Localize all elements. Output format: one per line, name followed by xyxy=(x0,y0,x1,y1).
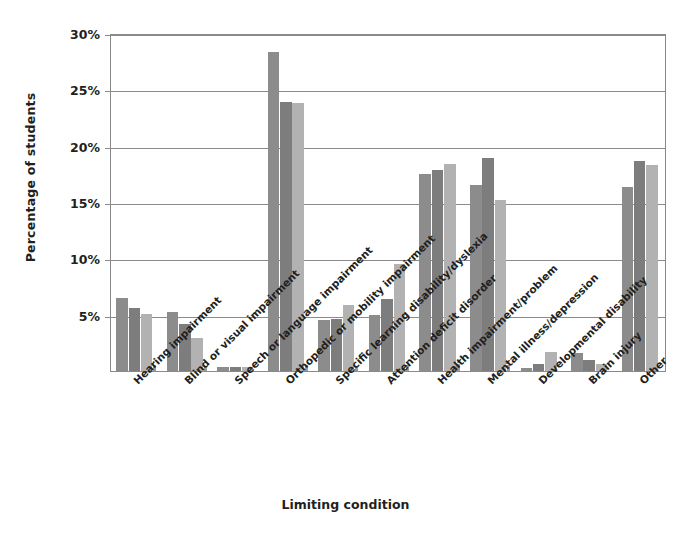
bar xyxy=(521,368,533,371)
y-tick-mark xyxy=(105,148,111,149)
y-axis-title: Percentage of students xyxy=(23,78,38,278)
y-tick-mark xyxy=(105,260,111,261)
y-tick-mark xyxy=(105,317,111,318)
bar xyxy=(495,200,507,371)
x-axis-title: Limiting condition xyxy=(0,497,691,512)
y-tick-label: 30% xyxy=(42,27,100,42)
bar xyxy=(129,308,141,371)
y-tick-label: 5% xyxy=(42,308,100,323)
y-tick-label: 25% xyxy=(42,83,100,98)
y-tick-mark xyxy=(105,91,111,92)
bar xyxy=(116,298,128,371)
bar-group xyxy=(622,35,662,371)
y-tick-label: 15% xyxy=(42,196,100,211)
bar xyxy=(268,52,280,371)
bar xyxy=(217,367,229,371)
y-tick-label: 10% xyxy=(42,252,100,267)
bar-group xyxy=(116,35,156,371)
y-tick-mark xyxy=(105,204,111,205)
y-tick-label: 20% xyxy=(42,139,100,154)
chart-figure: Percentage of students Limiting conditio… xyxy=(0,0,691,545)
bar xyxy=(646,165,658,371)
y-tick-mark xyxy=(105,35,111,36)
